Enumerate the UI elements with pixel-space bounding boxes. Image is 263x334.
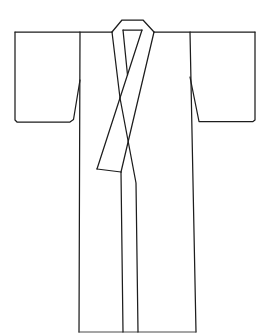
left-sleeve-outline bbox=[15, 32, 80, 122]
body-side-seam-left bbox=[79, 32, 80, 332]
body-side-seam-right bbox=[190, 32, 196, 332]
kimono-line-drawing bbox=[0, 0, 263, 334]
left-collar-band-outer-edge bbox=[112, 32, 120, 98]
collar-band-end-edge bbox=[97, 169, 121, 172]
right-collar-band-inner-edge bbox=[97, 30, 142, 169]
kimono-illustration bbox=[0, 0, 263, 334]
left-collar-band-inner-edge bbox=[123, 30, 128, 75]
front-opening-over-panel-edge bbox=[121, 172, 123, 332]
right-sleeve-outline bbox=[190, 32, 255, 122]
right-collar-band-outer-edge bbox=[121, 32, 154, 172]
